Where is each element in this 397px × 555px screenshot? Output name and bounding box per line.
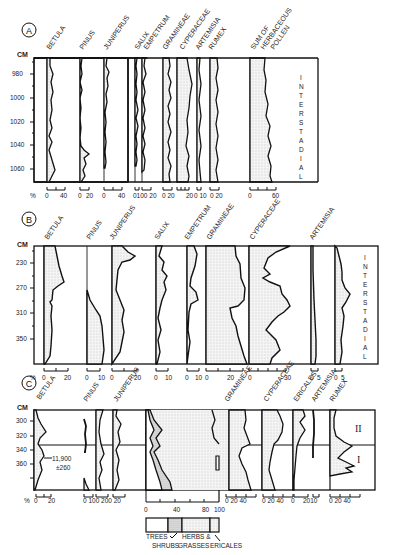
- svg-text:270: 270: [16, 284, 27, 291]
- svg-text:0: 0: [248, 192, 252, 199]
- date-annotation: 11,900: [52, 455, 72, 462]
- svg-text:SHRUBS: SHRUBS: [152, 542, 180, 549]
- svg-text:HERBS &: HERBS &: [182, 533, 211, 540]
- svg-text:230: 230: [16, 259, 27, 266]
- svg-text:350: 350: [16, 335, 27, 342]
- svg-text:%: %: [30, 192, 36, 199]
- panel-c-scales: % 0 20 0 100 200 20 0 40 80 100 0 20 40 …: [24, 494, 360, 513]
- svg-text:CM: CM: [17, 241, 28, 248]
- panel-b-depth-axis: 230 270 310 350: [16, 251, 34, 342]
- svg-text:0 10: 0 10: [194, 192, 207, 199]
- svg-text:0: 0: [185, 374, 189, 381]
- svg-text:C: C: [26, 379, 33, 389]
- panel-b-scales: % 0 20 0 10 0 20 0 10 0 10 0 20 0 30 0 5: [30, 368, 345, 381]
- svg-text:0: 0: [205, 374, 209, 381]
- svg-text:20: 20: [227, 374, 235, 381]
- svg-text:1020: 1020: [10, 118, 25, 125]
- panel-c-depth-axis: 300 320 340 360: [16, 417, 34, 478]
- svg-text:0: 0: [102, 192, 106, 199]
- svg-text:%: %: [24, 497, 30, 504]
- svg-text:BETULA: BETULA: [35, 374, 57, 401]
- zone-ii-label: II: [355, 423, 362, 434]
- panel-a-label: A: [26, 26, 32, 36]
- svg-text:20: 20: [64, 374, 72, 381]
- svg-text:TREES: TREES: [146, 533, 168, 540]
- panel-b: B CM BETULA PINUS JUNIPERUS SALIX EMPETR…: [16, 197, 378, 381]
- panel-a-scales: % 0 40 0 20 0 40 0100 20 0 20 20 0 10 0 …: [30, 187, 280, 199]
- svg-text:310: 310: [16, 309, 27, 316]
- svg-text:1060: 1060: [10, 165, 25, 172]
- svg-text:JUNIPERUS: JUNIPERUS: [108, 204, 137, 241]
- svg-text:40: 40: [60, 192, 68, 199]
- svg-text:PINUS: PINUS: [78, 29, 96, 51]
- zone-i-label: I: [357, 454, 360, 465]
- svg-text:0: 0: [42, 374, 46, 381]
- svg-text:B: B: [26, 215, 32, 225]
- summary-legend: TREES SHRUBS HERBS & GRASSES ERICALES: [146, 518, 243, 549]
- panel-a-curves: [34, 58, 318, 182]
- svg-text:20: 20: [186, 192, 194, 199]
- pollen-diagram: A CM BETULA PINUS JUNIPERUS SALIX EMPETR…: [0, 0, 397, 555]
- svg-text:0 20: 0 20: [162, 192, 175, 199]
- svg-text:10: 10: [98, 374, 106, 381]
- svg-text:±260: ±260: [56, 464, 71, 471]
- panel-b-headers: BETULA PINUS JUNIPERUS SALIX EMPETRUM GR…: [43, 197, 335, 240]
- svg-text:2010: 2010: [303, 497, 318, 504]
- svg-text:40: 40: [118, 192, 126, 199]
- svg-text:GRAMINEAE: GRAMINEAE: [223, 364, 253, 403]
- svg-text:360: 360: [16, 460, 27, 467]
- svg-text:1000: 1000: [10, 94, 25, 101]
- svg-text:SALIX: SALIX: [153, 220, 170, 241]
- svg-text:0 20: 0 20: [210, 192, 223, 199]
- svg-text:0: 0: [45, 192, 49, 199]
- svg-text:0: 0: [78, 192, 82, 199]
- svg-text:0: 0: [34, 497, 38, 504]
- panel-a-unit: CM: [17, 51, 28, 58]
- svg-text:340: 340: [16, 446, 27, 453]
- svg-text:320: 320: [16, 432, 27, 439]
- svg-text:40: 40: [173, 506, 181, 513]
- svg-text:0 20 40: 0 20 40: [329, 497, 351, 504]
- panel-c: C CM BETULA PINUS JUNIPERUS GRAMINEAE CY…: [16, 359, 375, 549]
- svg-text:1040: 1040: [10, 141, 25, 148]
- svg-text:0: 0: [144, 506, 148, 513]
- svg-text:0: 0: [85, 374, 89, 381]
- svg-text:PINUS: PINUS: [82, 381, 100, 403]
- svg-text:CM: CM: [17, 404, 28, 411]
- svg-text:0 100 200 20: 0 100 200 20: [83, 497, 121, 504]
- svg-text:0: 0: [110, 374, 114, 381]
- svg-text:0 20 40: 0 20 40: [225, 497, 247, 504]
- panel-b-zone-label: INTERSTADIAL: [363, 254, 368, 360]
- svg-text:ARTEMISIA: ARTEMISIA: [308, 205, 335, 240]
- svg-text:0: 0: [291, 497, 295, 504]
- svg-text:0 20 40: 0 20 40: [262, 497, 284, 504]
- svg-text:RUMEX: RUMEX: [328, 378, 348, 403]
- svg-text:20: 20: [86, 192, 94, 199]
- svg-text:BETULA: BETULA: [43, 214, 65, 241]
- svg-text:5: 5: [317, 374, 321, 381]
- svg-text:10: 10: [165, 374, 173, 381]
- svg-text:20: 20: [48, 497, 56, 504]
- svg-text:80: 80: [202, 506, 210, 513]
- svg-text:300: 300: [16, 417, 27, 424]
- svg-text:ERICALES: ERICALES: [210, 542, 243, 549]
- svg-text:GRASSES: GRASSES: [178, 542, 210, 549]
- panel-a-headers: BETULA PINUS JUNIPERUS SALIX EMPETRUM GR…: [45, 6, 293, 50]
- svg-text:0100 20: 0100 20: [133, 192, 157, 199]
- svg-text:10: 10: [195, 374, 203, 381]
- svg-text:0: 0: [154, 374, 158, 381]
- svg-text:0: 0: [248, 374, 252, 381]
- svg-text:BETULA: BETULA: [45, 24, 67, 51]
- panel-a-depth-axis: 980 1000 1020 1040 1060: [10, 62, 34, 172]
- svg-text:980: 980: [12, 70, 23, 77]
- svg-text:100: 100: [214, 506, 225, 513]
- panel-a-zone-label: INTERSTADIAL: [299, 74, 304, 180]
- svg-text:JUNIPERUS: JUNIPERUS: [102, 14, 131, 51]
- svg-text:CYPERACEAE: CYPERACEAE: [248, 197, 281, 240]
- svg-text:PINUS: PINUS: [85, 219, 103, 241]
- panel-c-headers: BETULA PINUS JUNIPERUS GRAMINEAE CYPERAC…: [35, 359, 348, 402]
